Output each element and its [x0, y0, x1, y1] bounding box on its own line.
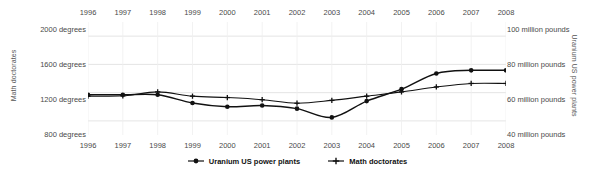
data-point-marker: [434, 71, 439, 76]
x-tick-top-1999: 1999: [176, 8, 210, 17]
x-tick-bottom-1996: 1996: [71, 141, 105, 150]
legend-label-math: Math doctorates: [349, 157, 407, 166]
x-tick-bottom-2005: 2005: [385, 141, 419, 150]
left-axis-title: Math doctorates: [10, 33, 17, 119]
x-tick-bottom-2007: 2007: [454, 141, 488, 150]
plot-svg: [88, 22, 506, 135]
legend-item-uranium[interactable]: Uranium US power plants: [188, 156, 300, 166]
x-tick-bottom-2006: 2006: [419, 141, 453, 150]
x-tick-bottom-1997: 1997: [106, 141, 140, 150]
data-point-marker: [294, 101, 299, 106]
x-tick-bottom-2008: 2008: [489, 141, 523, 150]
y-right-tick-60: 60 million pounds: [507, 95, 565, 104]
data-point-marker: [225, 95, 230, 100]
data-point-marker: [295, 106, 300, 111]
data-point-marker: [469, 68, 474, 73]
chart-legend: Uranium US power plants Math doctorates: [0, 156, 595, 166]
y-left-tick-1600: 1600 degrees: [16, 60, 86, 69]
legend-marker-plus-icon: [328, 157, 344, 165]
data-point-marker: [225, 104, 230, 109]
y-right-tick-100: 100 million pounds: [507, 25, 570, 34]
x-tick-top-2004: 2004: [350, 8, 384, 17]
x-tick-top-2000: 2000: [210, 8, 244, 17]
x-tick-bottom-2002: 2002: [280, 141, 314, 150]
x-tick-top-2007: 2007: [454, 8, 488, 17]
x-tick-top-2005: 2005: [385, 8, 419, 17]
chart-container: Math doctorates Uranium US power plants …: [0, 0, 595, 175]
x-tick-top-2003: 2003: [315, 8, 349, 17]
legend-label-uranium: Uranium US power plants: [209, 157, 300, 166]
x-tick-top-2001: 2001: [245, 8, 279, 17]
x-tick-bottom-2001: 2001: [245, 141, 279, 150]
data-point-marker: [260, 103, 265, 108]
data-point-marker: [330, 115, 335, 120]
x-tick-top-1996: 1996: [71, 8, 105, 17]
legend-item-math[interactable]: Math doctorates: [328, 156, 407, 166]
x-tick-bottom-1998: 1998: [141, 141, 175, 150]
data-point-marker: [469, 81, 474, 86]
y-left-tick-2000: 2000 degrees: [16, 25, 86, 34]
y-right-tick-40: 40 million pounds: [507, 130, 565, 139]
right-axis-title: Uranium US power plants: [571, 33, 578, 119]
y-left-tick-1200: 1200 degrees: [16, 95, 86, 104]
x-tick-top-2006: 2006: [419, 8, 453, 17]
data-point-marker: [260, 97, 265, 102]
x-tick-bottom-2003: 2003: [315, 141, 349, 150]
y-left-tick-800: 800 degrees: [16, 130, 86, 139]
x-tick-top-2002: 2002: [280, 8, 314, 17]
data-point-marker: [503, 81, 506, 86]
data-point-marker: [329, 98, 334, 103]
plot-area: [88, 22, 506, 135]
data-point-marker: [190, 94, 195, 99]
data-point-marker: [364, 99, 369, 104]
x-tick-top-1998: 1998: [141, 8, 175, 17]
vertical-gridlines: [88, 22, 506, 135]
x-tick-top-1997: 1997: [106, 8, 140, 17]
x-tick-top-2008: 2008: [489, 8, 523, 17]
data-point-marker: [190, 101, 195, 106]
data-point-marker: [434, 84, 439, 89]
data-point-marker: [504, 68, 506, 73]
legend-marker-circle-icon: [188, 157, 204, 165]
x-tick-bottom-2000: 2000: [210, 141, 244, 150]
x-tick-bottom-1999: 1999: [176, 141, 210, 150]
y-right-tick-80: 80 million pounds: [507, 60, 565, 69]
x-tick-bottom-2004: 2004: [350, 141, 384, 150]
data-point-marker: [364, 94, 369, 99]
